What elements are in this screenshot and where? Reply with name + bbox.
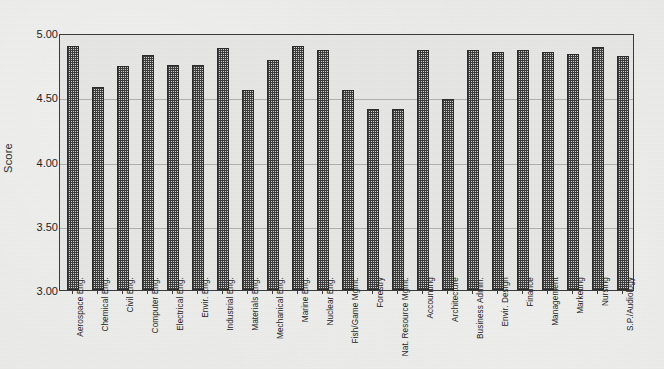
x-tick-label: Computer Eng.	[151, 277, 163, 367]
y-tick-label: 3.50	[18, 222, 58, 233]
x-tick-mark	[347, 291, 348, 294]
x-tick-label: Industrial Eng.	[226, 277, 238, 367]
bar	[592, 47, 604, 290]
x-tick-mark	[147, 291, 148, 294]
x-tick-mark	[597, 291, 598, 294]
bar	[467, 50, 479, 290]
x-tick-label: Envir. Eng.	[201, 277, 213, 367]
x-tick-mark	[422, 291, 423, 294]
x-tick-label: Aerospace Eng.	[76, 277, 88, 367]
bar	[342, 90, 354, 290]
x-tick-label: Electrical Eng.	[176, 277, 188, 367]
x-tick-mark	[522, 291, 523, 294]
x-tick-label: Accounting	[426, 277, 438, 367]
x-tick-label: Marketing	[576, 277, 588, 367]
x-tick-mark	[622, 291, 623, 294]
x-tick-mark	[497, 291, 498, 294]
bar-series	[60, 35, 633, 290]
x-tick-mark	[547, 291, 548, 294]
x-tick-label: Marine Eng.	[301, 277, 313, 367]
x-tick-label: Chemical Eng.	[101, 277, 113, 367]
bar	[117, 66, 129, 290]
y-axis-tick-labels: 3.003.504.004.505.00	[10, 0, 58, 369]
bar	[617, 56, 629, 290]
x-tick-mark	[97, 291, 98, 294]
x-tick-mark	[572, 291, 573, 294]
x-axis-tick-labels: Aerospace Eng.Chemical Eng.Civil Eng.Com…	[59, 291, 634, 369]
bar	[442, 99, 454, 290]
x-tick-mark	[472, 291, 473, 294]
x-tick-label: Management	[551, 277, 563, 367]
x-tick-label: Fish/Game Mgmt.	[351, 277, 363, 367]
bar	[217, 48, 229, 290]
plot-area	[59, 34, 634, 291]
x-tick-label: Business Admin.	[476, 277, 488, 367]
bar	[317, 50, 329, 290]
x-tick-label: Civil Eng.	[126, 277, 138, 367]
x-tick-mark	[322, 291, 323, 294]
chart-figure: Score 3.003.504.004.505.00 Aerospace Eng…	[0, 0, 664, 369]
x-tick-label: Nuclear Eng.	[326, 277, 338, 367]
y-tick-label: 5.00	[18, 29, 58, 40]
bar	[192, 65, 204, 290]
y-tick-label: 3.00	[18, 286, 58, 297]
x-tick-mark	[397, 291, 398, 294]
bar	[492, 52, 504, 290]
bar	[567, 54, 579, 290]
bar	[367, 109, 379, 290]
x-tick-mark	[197, 291, 198, 294]
bar	[267, 60, 279, 290]
x-tick-label: Forestry	[376, 277, 388, 367]
bar	[92, 87, 104, 290]
x-tick-label: Materials Eng.	[251, 277, 263, 367]
bar	[517, 50, 529, 290]
x-tick-mark	[447, 291, 448, 294]
x-tick-label: Mechanical Eng.	[276, 277, 288, 367]
bar	[542, 52, 554, 290]
x-tick-label: Architecture	[451, 277, 463, 367]
x-tick-mark	[72, 291, 73, 294]
bar	[292, 46, 304, 290]
x-tick-mark	[222, 291, 223, 294]
x-tick-mark	[172, 291, 173, 294]
x-tick-label: Envir. Design	[501, 277, 513, 367]
x-tick-mark	[297, 291, 298, 294]
x-tick-mark	[122, 291, 123, 294]
y-tick-label: 4.00	[18, 158, 58, 169]
y-tick-label: 4.50	[18, 93, 58, 104]
x-tick-label: Finance	[526, 277, 538, 367]
bar	[142, 55, 154, 290]
bar	[242, 90, 254, 290]
x-tick-label: Nursing	[601, 277, 613, 367]
x-tick-label: Nat. Resource Mgmt.	[401, 277, 413, 367]
bar	[167, 65, 179, 290]
x-tick-mark	[247, 291, 248, 294]
bar	[392, 109, 404, 290]
bar	[67, 46, 79, 290]
x-tick-label: S.P./Audiology	[626, 277, 638, 367]
bar	[417, 50, 429, 290]
x-tick-mark	[272, 291, 273, 294]
x-tick-mark	[372, 291, 373, 294]
